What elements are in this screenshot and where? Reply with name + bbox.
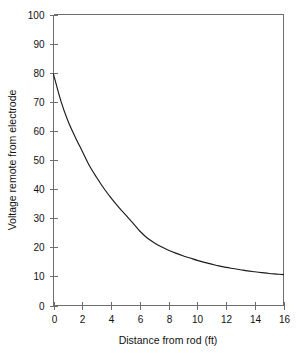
x-tick-label: 2 [80, 314, 86, 325]
y-tick-label: 30 [33, 213, 45, 224]
y-tick-label: 20 [33, 242, 45, 253]
x-tick-label: 16 [279, 314, 291, 325]
plot-frame [54, 15, 284, 306]
data-series-voltage-curve [54, 74, 284, 274]
x-tick-label: 0 [52, 314, 58, 325]
y-axis-tick-labels: 0102030405060708090100 [28, 10, 45, 312]
y-tick-label: 90 [33, 39, 45, 50]
x-tick-label: 4 [109, 314, 115, 325]
x-tick-label: 8 [167, 314, 173, 325]
y-tick-label: 40 [33, 184, 45, 195]
x-tick-label: 12 [221, 314, 233, 325]
y-tick-label: 70 [33, 97, 45, 108]
y-tick-label: 60 [33, 126, 45, 137]
x-axis-title: Distance from rod (ft) [119, 334, 218, 346]
x-tick-label: 6 [138, 314, 144, 325]
x-tick-label: 14 [250, 314, 262, 325]
y-tick-label: 50 [33, 155, 45, 166]
y-tick-label: 0 [39, 301, 45, 312]
y-tick-label: 80 [33, 68, 45, 79]
voltage-vs-distance-chart: 0102030405060708090100 0246810121416 Dis… [0, 0, 298, 353]
x-axis-tick-labels: 0246810121416 [52, 314, 291, 325]
x-tick-label: 10 [192, 314, 204, 325]
y-tick-label: 10 [33, 271, 45, 282]
y-tick-label: 100 [28, 10, 45, 21]
y-axis-title: Voltage remote from electrode [6, 90, 18, 231]
chart-container: 0102030405060708090100 0246810121416 Dis… [0, 0, 298, 353]
